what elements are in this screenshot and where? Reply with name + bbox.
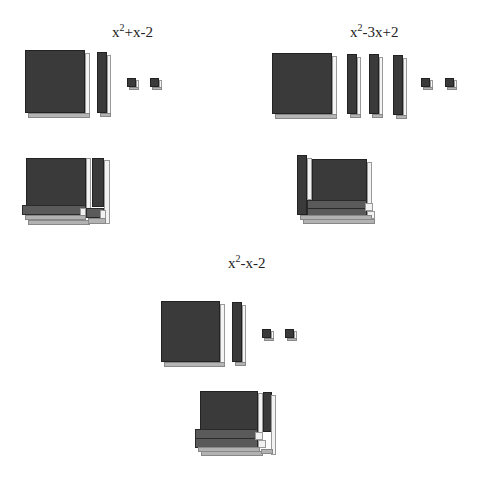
expression-label-top-left: x2+x-2 (112, 24, 153, 41)
expr-base: x (228, 255, 236, 271)
expression-label-top-right: x2-3x+2 (350, 24, 398, 41)
factored-arrangement-middle (195, 391, 277, 461)
expr-base: x (112, 24, 120, 40)
expr-rest: +x-2 (125, 24, 153, 40)
factored-arrangement-top-left (22, 158, 114, 228)
expr-base: x (350, 24, 358, 40)
expression-label-middle: x2-x-2 (228, 255, 266, 272)
expr-rest: -x-2 (241, 255, 266, 271)
factored-arrangement-top-right (297, 155, 379, 227)
expr-rest: -3x+2 (363, 24, 399, 40)
